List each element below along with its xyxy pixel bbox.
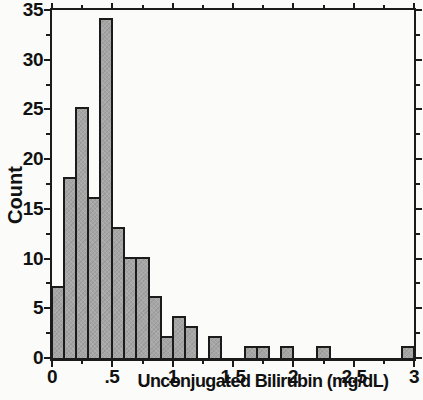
y-minor-tick <box>46 34 50 36</box>
x-minor-tick <box>202 361 204 365</box>
y-minor-tick-right <box>416 233 420 235</box>
histogram-bar <box>256 346 270 358</box>
x-minor-tick-top <box>262 5 264 8</box>
y-tick-label: 20 <box>0 149 43 169</box>
y-tick-label: 25 <box>0 99 43 119</box>
y-minor-tick <box>46 84 50 86</box>
plot-frame-left <box>50 8 53 361</box>
y-minor-tick-right <box>416 133 420 135</box>
histogram-bar <box>208 336 222 358</box>
y-major-tick-right <box>416 307 422 309</box>
y-tick-label: 0 <box>0 348 43 368</box>
histogram-bar <box>184 326 198 358</box>
x-minor-tick <box>81 361 83 365</box>
y-minor-tick <box>46 233 50 235</box>
x-minor-tick <box>383 361 385 365</box>
plot-area: 0.511.522.5305101520253035 <box>52 10 414 358</box>
y-minor-tick-right <box>416 282 420 284</box>
x-tick-label: 0 <box>22 366 82 388</box>
x-major-tick <box>172 361 174 367</box>
y-major-tick-right <box>416 59 422 61</box>
x-major-tick-top <box>413 3 415 8</box>
x-major-tick <box>292 361 294 367</box>
y-minor-tick-right <box>416 183 420 185</box>
y-major-tick-right <box>416 158 422 160</box>
y-tick-label: 5 <box>0 298 43 318</box>
y-major-tick-right <box>416 208 422 210</box>
x-minor-tick <box>262 361 264 365</box>
x-major-tick-top <box>232 3 234 8</box>
x-major-tick-top <box>292 3 294 8</box>
x-minor-tick-top <box>202 5 204 8</box>
x-major-tick <box>353 361 355 367</box>
y-minor-tick <box>46 133 50 135</box>
x-tick-label: 3 <box>384 366 423 388</box>
y-tick-label: 15 <box>0 199 43 219</box>
x-minor-tick <box>323 361 325 365</box>
x-minor-tick-top <box>81 5 83 8</box>
y-major-tick-right <box>416 9 422 11</box>
y-major-tick <box>44 258 50 260</box>
x-minor-tick-top <box>383 5 385 8</box>
x-tick-label: .5 <box>82 366 142 388</box>
y-tick-label: 35 <box>0 0 43 20</box>
x-major-tick <box>51 361 53 367</box>
y-minor-tick-right <box>416 332 420 334</box>
x-major-tick-top <box>172 3 174 8</box>
y-minor-tick <box>46 332 50 334</box>
y-major-tick <box>44 208 50 210</box>
x-major-tick-top <box>353 3 355 8</box>
y-tick-label: 10 <box>0 249 43 269</box>
x-axis-title: Unconjugated Bilirubin (mg/dL) <box>138 371 389 392</box>
y-major-tick <box>44 108 50 110</box>
x-minor-tick <box>142 361 144 365</box>
y-tick-label: 30 <box>0 50 43 70</box>
x-major-tick <box>232 361 234 367</box>
y-minor-tick <box>46 282 50 284</box>
plot-frame-top <box>50 8 417 10</box>
y-minor-tick-right <box>416 34 420 36</box>
y-major-tick <box>44 59 50 61</box>
y-major-tick <box>44 307 50 309</box>
x-major-tick <box>413 361 415 367</box>
histogram-bar <box>280 346 294 358</box>
y-major-tick <box>44 9 50 11</box>
x-minor-tick-top <box>323 5 325 8</box>
y-major-tick-right <box>416 258 422 260</box>
x-major-tick <box>111 361 113 367</box>
y-minor-tick-right <box>416 84 420 86</box>
x-major-tick-top <box>111 3 113 8</box>
histogram-bar <box>316 346 331 358</box>
y-major-tick-right <box>416 357 422 359</box>
y-major-tick <box>44 158 50 160</box>
histogram-figure: Count 0.511.522.5305101520253035 Unconju… <box>0 0 423 400</box>
y-minor-tick <box>46 183 50 185</box>
y-major-tick <box>44 357 50 359</box>
x-minor-tick-top <box>142 5 144 8</box>
histogram-bar <box>401 346 415 358</box>
y-major-tick-right <box>416 108 422 110</box>
x-major-tick-top <box>51 3 53 8</box>
